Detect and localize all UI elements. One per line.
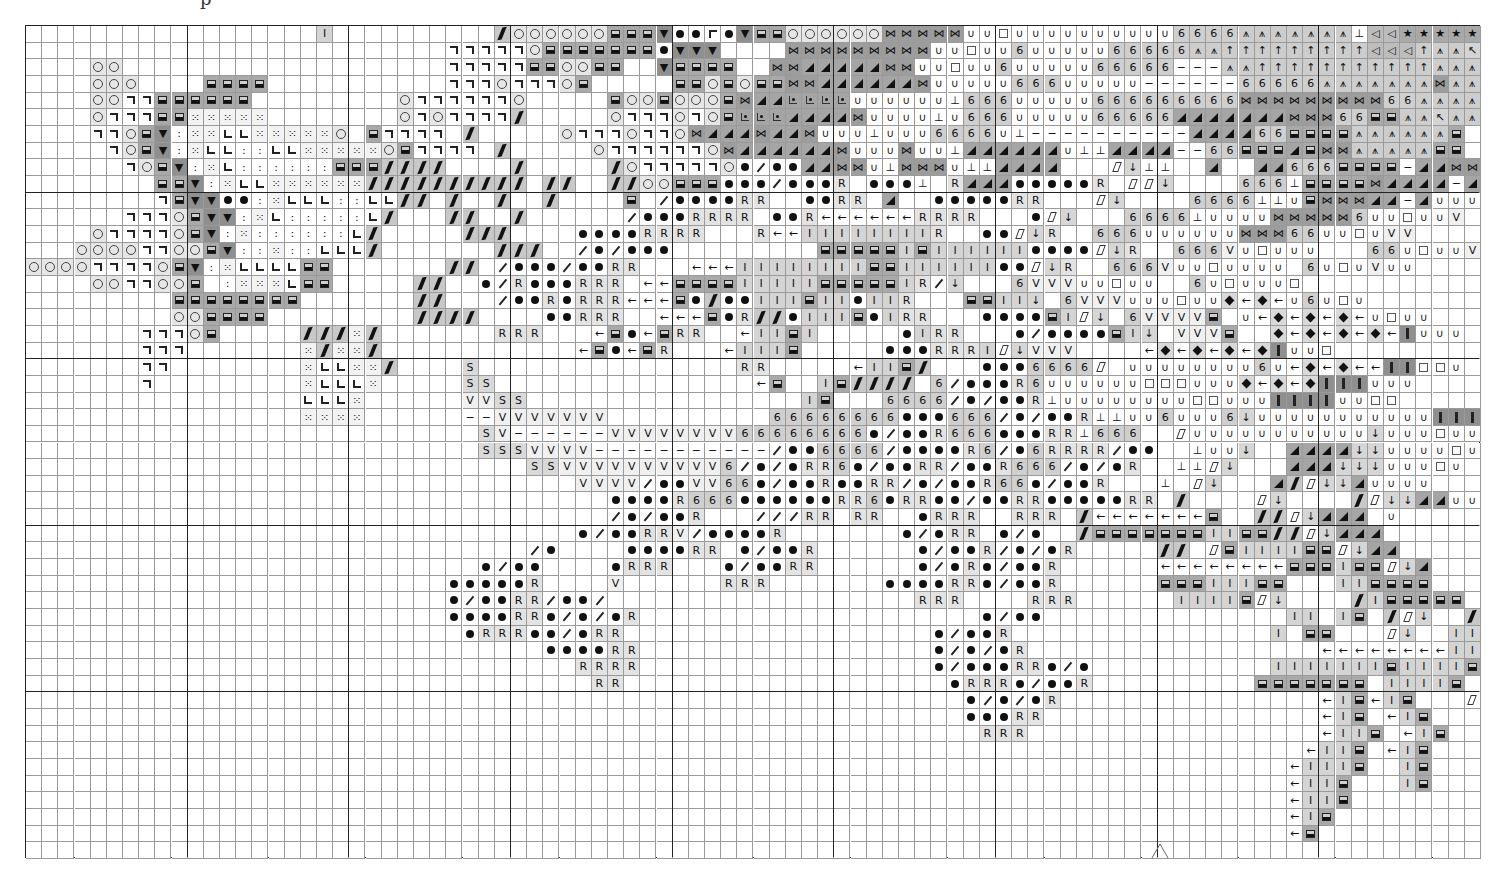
cup-icon: ∪ [1452, 461, 1460, 472]
grid-cell-blank [430, 359, 446, 376]
up-tack-icon: ⊥ [886, 162, 896, 173]
up-arrow-icon: ↑ [1322, 45, 1331, 56]
grid-cell-corner-triangle [1319, 509, 1335, 526]
grid-cell-blank [1384, 526, 1400, 543]
corner-bottom-left-icon [240, 130, 248, 138]
grid-cell-blank [883, 842, 899, 859]
grid-cell-cup: ∪ [1142, 393, 1158, 410]
grid-cell-blank [899, 792, 915, 809]
colon-icon: ꞉ [339, 228, 343, 239]
grid-cell-blank [527, 93, 543, 110]
grid-cell-blank [543, 659, 559, 676]
grid-cell-blank [155, 676, 171, 693]
grid-cell-blank [75, 276, 91, 293]
grid-cell-blank [1384, 276, 1400, 293]
grid-cell-blank [527, 226, 543, 243]
grid-cell-cup: ∪ [1303, 426, 1319, 443]
grid-cell-half-filled-square [301, 276, 317, 293]
grid-cell-letter-i: I [1303, 609, 1319, 626]
grid-cell-asterisk-arrow: ⩚ [1465, 76, 1481, 93]
grid-cell-blank [317, 742, 333, 759]
bowtie-icon: ⋈ [691, 128, 702, 139]
grid-cell-half-filled-square [204, 93, 220, 110]
grid-cell-corner-top-right [414, 143, 430, 160]
grid-cell-blank [721, 226, 737, 243]
grid-cell-blank [867, 659, 883, 676]
grid-cell-blank [479, 159, 495, 176]
grid-cell-letter-i: I [834, 309, 850, 326]
colon-icon: ꞉ [258, 228, 262, 239]
asterisk-arrow-icon: ⩚ [1275, 28, 1281, 39]
grid-cell-cup: ∪ [1239, 426, 1255, 443]
grid-cell-corner-bottom-left [269, 259, 285, 276]
cup-icon: ∪ [919, 112, 927, 123]
grid-cell-cup: ∪ [1352, 259, 1368, 276]
grid-cell-blank [75, 443, 91, 460]
grid-cell-letter-v: V [576, 459, 592, 476]
grid-cell-digit-six: 6 [948, 409, 964, 426]
grid-cell-blank [236, 642, 252, 659]
grid-cell-half-filled-square [1190, 576, 1206, 593]
bowtie-icon: ⋈ [853, 162, 864, 173]
digit-six-icon: 6 [1129, 228, 1136, 239]
grid-cell-blank [1416, 542, 1432, 559]
grid-cell-scatter-dots: ⁙ [301, 143, 317, 160]
letter-r-icon: R [531, 611, 539, 622]
grid-cell-blank [1433, 276, 1449, 293]
grid-cell-blank [915, 842, 931, 859]
grid-cell-half-filled-square [1303, 143, 1319, 160]
grid-cell-letter-r: R [948, 209, 964, 226]
corner-triangle-icon [1290, 446, 1299, 455]
grid-cell-blank [673, 626, 689, 643]
grid-cell-blank [1028, 842, 1044, 859]
grid-cell-letter-r: R [705, 542, 721, 559]
grid-cell-blank [285, 742, 301, 759]
grid-cell-blank [139, 826, 155, 843]
grid-cell-blank [1028, 809, 1044, 826]
grid-cell-blank [1433, 343, 1449, 360]
grid-cell-corner-top-right [495, 109, 511, 126]
grid-cell-blank [1449, 542, 1465, 559]
letter-i-icon: I [1406, 745, 1409, 756]
grid-cell-blank [479, 792, 495, 809]
half-filled-square-icon [1436, 596, 1445, 604]
corner-bottom-left-icon [288, 263, 296, 271]
grid-cell-blank [398, 409, 414, 426]
grid-cell-letter-v: V [705, 476, 721, 493]
open-square-icon [1436, 363, 1445, 372]
grid-cell-blank [705, 776, 721, 793]
asterisk-arrow-icon: ⩚ [1372, 128, 1378, 139]
grid-cell-blank [1465, 476, 1481, 493]
grid-cell-corner-bottom-left [349, 376, 365, 393]
grid-cell-cup: ∪ [1271, 243, 1287, 260]
grid-cell-cup: ∪ [931, 76, 947, 93]
grid-cell-letter-i: I [867, 359, 883, 376]
letter-i-icon: I [1341, 761, 1344, 772]
left-arrow-icon: ← [1322, 711, 1331, 722]
letter-r-icon: R [1016, 711, 1024, 722]
digit-six-icon: 6 [806, 412, 813, 423]
grid-cell-blank [1449, 576, 1465, 593]
filled-dot-icon [547, 263, 555, 271]
open-circle-icon [126, 145, 136, 155]
digit-six-icon: 6 [919, 395, 926, 406]
grid-cell-blank [1433, 826, 1449, 843]
grid-cell-blank [236, 626, 252, 643]
grid-cell-blank [1093, 759, 1109, 776]
grid-cell-open-square [1352, 226, 1368, 243]
thin-slash-icon [563, 262, 571, 271]
letter-v-icon: V [531, 412, 539, 423]
letter-r-icon: R [596, 295, 604, 306]
grid-cell-blank [236, 343, 252, 360]
grid-cell-blank [333, 509, 349, 526]
dash-icon: − [465, 412, 474, 423]
grid-cell-blank [1077, 626, 1093, 643]
half-filled-square-icon [175, 96, 184, 104]
grid-cell-thick-backslash [382, 176, 398, 193]
left-arrow-icon: ← [1144, 511, 1153, 522]
cup-icon: ∪ [1404, 428, 1412, 439]
corner-top-right-icon [692, 146, 700, 154]
half-filled-square-icon [1339, 130, 1348, 138]
filled-dot-icon [951, 480, 959, 488]
grid-cell-scatter-dots: ⁙ [317, 176, 333, 193]
